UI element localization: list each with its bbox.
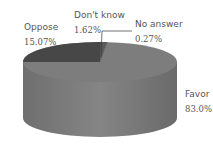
label-no-answer-value: 0.27%	[135, 34, 183, 45]
label-dont-know-name: Don't know	[74, 10, 125, 21]
label-dont-know: Don't know 1.62%	[74, 10, 125, 36]
label-no-answer-name: No answer	[135, 19, 183, 30]
label-oppose: Oppose 15.07%	[24, 22, 58, 48]
label-dont-know-value: 1.62%	[74, 25, 125, 36]
label-oppose-name: Oppose	[24, 22, 58, 33]
label-oppose-value: 15.07%	[24, 37, 58, 48]
label-favor-value: 83.0%	[185, 104, 212, 115]
label-no-answer: No answer 0.27%	[135, 19, 183, 45]
label-favor: Favor 83.0%	[185, 89, 212, 115]
label-favor-name: Favor	[185, 89, 212, 100]
